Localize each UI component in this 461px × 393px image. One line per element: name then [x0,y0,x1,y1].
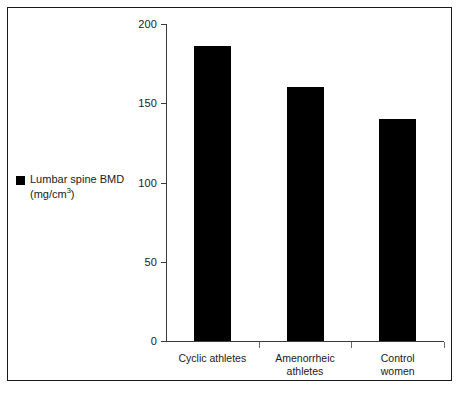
x-category-label-cyclic-athletes: Cyclic athletes [166,352,259,365]
legend-label-line1: Lumbar spine BMD [30,172,156,187]
y-tick-label: 100 [138,177,157,188]
plot-area: 200150100500 Cyclic athletesAmenorrheic … [166,24,444,341]
legend-units-suffix: ) [71,188,75,200]
x-tick-mark [259,342,260,348]
x-axis-line [166,341,444,342]
bar-cyclic-athletes[interactable] [194,46,231,341]
y-tick-label: 0 [151,336,157,347]
y-tick-mark [161,103,167,104]
y-tick-mark [161,183,167,184]
y-tick-label: 150 [138,98,157,109]
x-tick-mark [444,342,445,348]
legend-entry-lumbar-spine-bmd: Lumbar spine BMD (mg/cm3) [16,172,156,202]
figure-root: Lumbar spine BMD (mg/cm3) 200150100500 C… [0,0,461,393]
legend-units-prefix: (mg/cm [30,188,67,200]
x-tick-mark [351,342,352,348]
y-tick-mark [161,341,167,342]
y-tick-label: 50 [145,256,157,267]
bar-control-women[interactable] [379,119,416,341]
legend-label-line2: (mg/cm3) [30,187,156,202]
chart-legend: Lumbar spine BMD (mg/cm3) [16,172,156,202]
y-tick-mark [161,24,167,25]
y-tick-mark [161,262,167,263]
legend-swatch-icon [16,176,25,185]
y-tick-label: 200 [138,19,157,30]
bar-amenorrheic-athletes[interactable] [287,87,324,341]
x-category-label-amenorrheic: Amenorrheic athletes [259,352,352,378]
x-category-label-control: Control women [351,352,444,378]
